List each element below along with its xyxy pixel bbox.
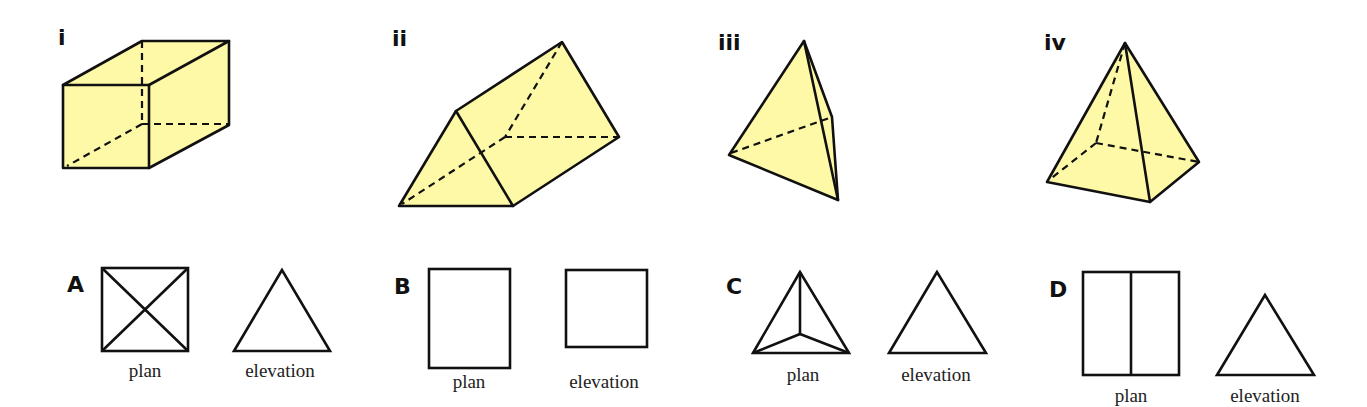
view-letter-a: A [67,272,84,297]
cuboid-fill [63,41,229,168]
plan-caption-d: plan [1115,385,1148,406]
solid-label-iii: iii [718,30,741,55]
solid-iii-tetrahedron: iii [718,30,838,200]
view-set-b: B plan elevation [394,269,647,392]
pyramid-fill [1047,43,1199,202]
view-set-a: A plan elevation [67,268,330,381]
plan-c-triangle-with-centre-lines [753,272,849,353]
plan-caption-a: plan [129,360,162,381]
elevation-caption-b: elevation [569,371,639,392]
view-letter-b: B [394,274,411,299]
elevation-a-triangle [234,270,330,351]
elevation-caption-a: elevation [245,360,315,381]
plan-caption-c: plan [787,364,820,385]
view-letter-c: C [726,274,742,299]
elevation-caption-c: elevation [901,364,971,385]
solid-label-i: i [58,25,66,50]
elevation-c-triangle [889,272,986,353]
elevation-caption-d: elevation [1230,385,1300,406]
view-set-d: D plan elevation [1049,272,1314,406]
solid-i-cuboid: i [58,25,229,168]
elevation-b-square [566,270,647,347]
solid-ii-triangular-prism: ii [392,26,619,206]
solid-label-iv: iv [1044,30,1067,55]
plan-d-rectangle-split [1083,272,1179,375]
elevation-d-triangle [1217,295,1314,375]
plan-b-rectangle [429,269,510,368]
solid-label-ii: ii [392,26,407,51]
solids-and-views-diagram: i ii iii iv A [0,0,1367,407]
view-letter-d: D [1049,277,1067,302]
prism-fill [399,42,619,206]
plan-caption-b: plan [453,371,486,392]
view-set-c: C plan elevation [726,272,986,385]
plan-a-square-diagonals [102,268,188,351]
solid-iv-square-pyramid: iv [1044,30,1199,202]
